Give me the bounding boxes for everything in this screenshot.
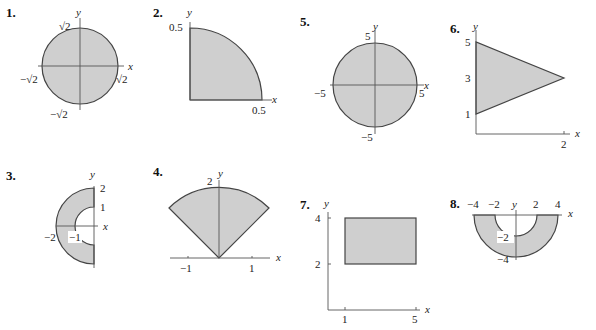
figure-8-y-label: y: [511, 198, 517, 210]
figure-3-x-tick-neg2: −2: [44, 231, 56, 243]
figure-4-x-tick-1: 1: [249, 262, 255, 274]
figure-8-number: 8.: [450, 196, 460, 211]
figure-7-x-tick-5: 5: [412, 313, 418, 325]
figure-8-x-tick-2: 2: [533, 198, 539, 210]
figure-5-y-label: y: [372, 20, 378, 32]
figure-6-x-label: x: [574, 127, 580, 139]
figure-8-x-label: x: [567, 207, 573, 219]
figure-6-y-tick-1: 1: [465, 108, 471, 120]
figure-8-y-tick-neg4: −4: [497, 253, 509, 265]
figure-1-y-label: y: [75, 6, 81, 18]
figure-2-y-tick: 0.5: [169, 21, 183, 33]
figure-7-x-tick-1: 1: [342, 313, 348, 325]
figure-1-bottom-label: −√2: [50, 108, 68, 120]
figure-sheet: 1. x y √2 −√2 √2 −√2 2. x y 0.5 0.5 5. x…: [0, 0, 596, 330]
figure-6-x-tick-2: 2: [561, 138, 567, 150]
figure-2-x-tick: 0.5: [252, 104, 266, 116]
figure-7-number: 7.: [300, 197, 310, 212]
figure-2-number: 2.: [153, 5, 163, 20]
figure-6: 6. x y 5 3 1 2: [450, 20, 580, 150]
figure-6-y-label: y: [472, 20, 478, 32]
figure-5-top-label: 5: [365, 30, 371, 42]
figure-3-y-tick-1: 1: [100, 201, 106, 213]
figure-1-left-label: −√2: [20, 73, 38, 85]
figure-2: 2. x y 0.5 0.5: [153, 5, 277, 116]
figure-3-y-label: y: [89, 168, 95, 180]
figure-3-number: 3.: [6, 168, 16, 183]
figure-4-x-tick-neg1: −1: [180, 262, 192, 274]
figure-8-y-tick-neg2: −2: [497, 231, 509, 243]
figure-5-bottom-label: −5: [361, 131, 373, 143]
figure-1-x-label: x: [127, 60, 133, 72]
figure-1: 1. x y √2 −√2 √2 −√2: [6, 5, 133, 120]
figure-4-y-label: y: [217, 167, 223, 179]
figure-3-y-tick-2: 2: [100, 182, 106, 194]
figure-6-number: 6.: [450, 21, 460, 36]
figure-7-y-label: y: [323, 197, 329, 209]
figure-1-top-label: √2: [59, 20, 71, 32]
figure-3: 3. x y 2 1 −2 −1: [6, 168, 108, 268]
figure-4-x-label: x: [275, 251, 281, 263]
figure-2-y-label: y: [186, 6, 192, 18]
figure-4-y-tick: 2: [207, 175, 213, 187]
figure-1-right-label: √2: [116, 73, 128, 85]
figure-8-x-tick-neg4: −4: [467, 198, 479, 210]
figure-6-triangle: [476, 42, 564, 114]
figure-5-left-label: −5: [314, 87, 326, 99]
figure-7-rectangle: [345, 218, 416, 264]
figure-4-number: 4.: [153, 164, 163, 179]
figure-3-x-label: x: [102, 220, 108, 232]
figure-5: 5. x y 5 −5 5 −5: [300, 14, 429, 143]
figure-7-y-tick-4: 4: [315, 212, 321, 224]
figure-2-quarter-disk: [190, 28, 262, 100]
figure-5-number: 5.: [300, 14, 310, 29]
figure-7: 7. x y 4 2 1 5: [300, 197, 430, 325]
figure-8: 8. x y −4 −2 2 4 −2 −4: [450, 196, 573, 265]
figure-6-y-tick-5: 5: [465, 36, 471, 48]
figure-8-x-tick-neg2: −2: [488, 198, 500, 210]
figure-1-number: 1.: [6, 5, 16, 20]
figure-3-x-tick-neg1: −1: [69, 231, 81, 243]
figure-4: 4. x y 2 −1 1: [153, 164, 281, 274]
figure-5-right-label: 5: [419, 87, 425, 99]
figure-8-x-tick-4: 4: [555, 198, 561, 210]
figure-7-y-tick-2: 2: [315, 258, 321, 270]
figure-2-x-label: x: [271, 93, 277, 105]
figure-7-x-label: x: [424, 303, 430, 315]
figure-6-y-tick-3: 3: [465, 72, 471, 84]
